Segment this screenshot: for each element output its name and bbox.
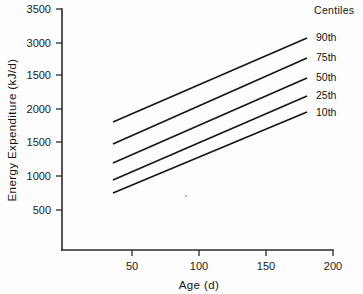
y-tick-label: 3500: [27, 3, 51, 15]
scan-speck: [185, 195, 187, 197]
y-tick-marks: [56, 9, 62, 210]
series-lines: [113, 38, 307, 193]
x-tick-marks: [132, 250, 333, 256]
y-tick-label: 1500: [27, 69, 51, 81]
legend-item-10th: 10th: [316, 106, 337, 118]
x-tick-labels: 50 100 150 200: [126, 260, 342, 272]
line-chart-plot: 3500 3000 1500 2000 1500 1000 500 50 100…: [0, 0, 363, 294]
y-tick-label: 3000: [27, 37, 51, 49]
legend-item-25th: 25th: [316, 89, 337, 101]
x-tick-label: 200: [324, 260, 342, 272]
legend-item-75th: 75th: [316, 51, 337, 63]
x-axis-title: Age (d): [179, 279, 220, 291]
y-tick-labels: 3500 3000 1500 2000 1500 1000 500: [27, 3, 51, 216]
y-tick-label: 2000: [27, 103, 51, 115]
series-line-75th: [113, 58, 307, 144]
legend-item-50th: 50th: [316, 71, 337, 83]
legend-item-90th: 90th: [316, 31, 337, 43]
x-tick-label: 100: [190, 260, 208, 272]
legend-title: Centiles: [314, 4, 354, 16]
x-tick-label: 50: [126, 260, 138, 272]
series-line-50th: [113, 78, 307, 163]
series-line-10th: [113, 112, 307, 193]
legend-items: 90th 75th 50th 25th 10th: [316, 31, 337, 118]
y-tick-label: 1500: [27, 136, 51, 148]
x-tick-label: 150: [257, 260, 275, 272]
chart-figure: 3500 3000 1500 2000 1500 1000 500 50 100…: [0, 0, 363, 294]
y-axis-title: Energy Expenditure (kJ/d): [6, 59, 18, 202]
y-tick-label: 500: [33, 204, 51, 216]
y-tick-label: 1000: [27, 170, 51, 182]
